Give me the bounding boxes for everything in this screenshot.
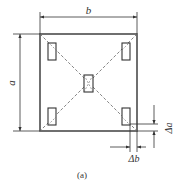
dimension-delta-b xyxy=(110,125,146,152)
pad-center xyxy=(84,75,93,92)
label-delta-b: Δb xyxy=(128,153,140,164)
plate-layout-diagram: b a Δa Δb (a) xyxy=(0,0,180,188)
label-delta-a: Δa xyxy=(163,123,174,135)
dimension-a xyxy=(13,34,40,131)
pad-top-left xyxy=(48,43,56,60)
pads xyxy=(48,43,130,125)
label-a: a xyxy=(5,80,17,86)
label-b: b xyxy=(86,4,92,16)
pad-top-right xyxy=(122,43,130,60)
figure-caption: (a) xyxy=(77,170,87,180)
dimension-delta-a xyxy=(130,105,158,148)
pad-bottom-right xyxy=(122,108,130,125)
pad-bottom-left xyxy=(48,108,56,125)
